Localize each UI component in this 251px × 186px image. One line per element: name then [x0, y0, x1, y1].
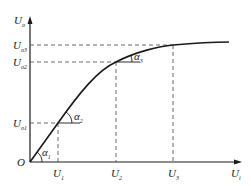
- origin-label: O: [17, 156, 25, 168]
- x-tick-u1: U1: [53, 167, 64, 181]
- angle-label-alpha2: α2: [74, 110, 83, 124]
- y-tick-uo1: Uo1: [13, 117, 27, 131]
- x-tick-u2: U2: [111, 167, 122, 181]
- angle-label-alpha1: α1: [42, 146, 51, 160]
- y-tick-uo3: Uo3: [13, 39, 27, 53]
- x-tick-u3: U3: [168, 167, 179, 181]
- dashed-guides: [30, 45, 173, 162]
- x-axis-label: Ui: [231, 167, 241, 181]
- angle-markers: [37, 56, 140, 162]
- y-tick-uo2: Uo2: [13, 56, 27, 70]
- y-axis-label: Uo: [14, 14, 25, 28]
- characteristic-curve-diagram: Uo Uo3 Uo2 Uo1 O U1 U2 U3 Ui α1 α2 α3: [0, 0, 251, 186]
- y-axis-arrow-icon: [28, 16, 33, 24]
- characteristic-curve: [30, 42, 229, 162]
- angle-arc-alpha2: [66, 112, 72, 123]
- x-axis-arrow-icon: [234, 160, 242, 165]
- angle-arc-alpha3: [131, 56, 132, 62]
